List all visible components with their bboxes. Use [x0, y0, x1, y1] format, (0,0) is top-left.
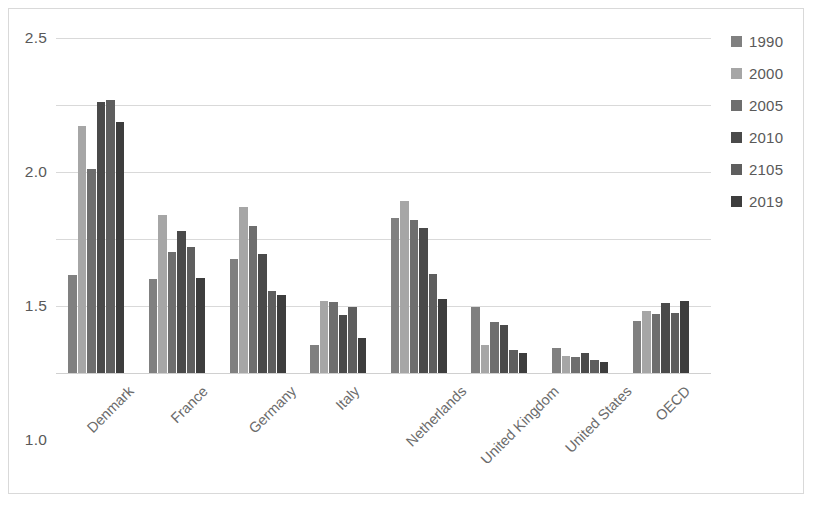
y-axis-tick-label: 2.0 — [25, 163, 47, 181]
bar-series-layer — [56, 38, 701, 373]
legend-swatch-icon — [731, 132, 742, 143]
bar — [97, 102, 106, 373]
bar — [310, 345, 319, 373]
bar — [277, 295, 286, 373]
bar-group — [620, 38, 701, 373]
legend-item[interactable]: 1990 — [731, 33, 783, 50]
bar — [339, 315, 348, 373]
bar-group — [137, 38, 218, 373]
bar — [391, 218, 400, 373]
bar — [239, 207, 248, 373]
legend-item[interactable]: 2000 — [731, 65, 783, 82]
legend-swatch-icon — [731, 68, 742, 79]
chart-legend: 199020002005201021052019 — [731, 33, 783, 210]
bar — [500, 325, 509, 373]
bar — [509, 350, 518, 373]
bar — [481, 345, 490, 373]
x-axis-label-cell: Germany — [217, 375, 298, 485]
legend-label: 2019 — [749, 193, 783, 210]
bar — [158, 215, 167, 373]
bar — [177, 231, 186, 373]
bar — [419, 228, 428, 373]
bar — [590, 360, 599, 373]
gridline: 0.0 — [56, 373, 711, 374]
bar-group — [298, 38, 379, 373]
y-axis-tick-label: 1.0 — [25, 431, 47, 449]
bar — [329, 302, 338, 373]
bar — [671, 313, 680, 373]
bar — [600, 362, 609, 373]
legend-swatch-icon — [731, 100, 742, 111]
x-axis-label-cell: United Kingdom — [459, 375, 540, 485]
bar — [400, 201, 409, 373]
x-axis-tick-label: Italy — [333, 383, 363, 413]
chart-container: 0.00.51.01.52.02.5 DenmarkFranceGermanyI… — [8, 8, 804, 494]
bar — [249, 226, 258, 373]
bar — [258, 254, 267, 373]
bar-group — [379, 38, 460, 373]
legend-label: 2105 — [749, 161, 783, 178]
bar-group — [459, 38, 540, 373]
legend-item[interactable]: 2019 — [731, 193, 783, 210]
x-axis-label-cell: Italy — [298, 375, 379, 485]
bar — [268, 291, 277, 373]
bar — [168, 252, 177, 373]
bar — [562, 356, 571, 373]
bar — [410, 220, 419, 373]
bar — [633, 321, 642, 373]
bar — [552, 348, 561, 373]
legend-swatch-icon — [731, 196, 742, 207]
bar — [642, 311, 651, 373]
x-axis-tick-label: Denmark — [84, 383, 137, 436]
x-axis-labels: DenmarkFranceGermanyItalyNetherlandsUnit… — [56, 375, 701, 485]
bar — [438, 299, 447, 373]
bar — [87, 169, 96, 373]
bar — [230, 259, 239, 373]
x-axis-label-cell: OECD — [620, 375, 701, 485]
plot-area: 0.00.51.01.52.02.5 — [56, 38, 711, 373]
bar — [68, 275, 77, 373]
bar — [196, 278, 205, 373]
x-axis-tick-label: France — [168, 383, 211, 426]
bar — [78, 126, 87, 373]
bar-group — [540, 38, 621, 373]
bar — [519, 353, 528, 373]
legend-item[interactable]: 2105 — [731, 161, 783, 178]
legend-swatch-icon — [731, 164, 742, 175]
x-axis-label-cell: United States — [540, 375, 621, 485]
legend-label: 2010 — [749, 129, 783, 146]
bar — [106, 100, 115, 373]
bar-group — [56, 38, 137, 373]
legend-label: 1990 — [749, 33, 783, 50]
bar-group — [217, 38, 298, 373]
legend-item[interactable]: 2005 — [731, 97, 783, 114]
bar — [429, 274, 438, 373]
y-axis-tick-label: 1.5 — [25, 297, 47, 315]
y-axis-tick-label: 2.5 — [25, 29, 47, 47]
bar — [490, 322, 499, 373]
bar — [680, 301, 689, 373]
bar — [149, 279, 158, 373]
legend-item[interactable]: 2010 — [731, 129, 783, 146]
bar — [652, 314, 661, 373]
bar — [571, 357, 580, 373]
bar — [358, 338, 367, 373]
legend-label: 2000 — [749, 65, 783, 82]
x-axis-label-cell: Netherlands — [379, 375, 460, 485]
bar — [187, 247, 196, 373]
bar — [661, 303, 670, 373]
legend-swatch-icon — [731, 36, 742, 47]
legend-label: 2005 — [749, 97, 783, 114]
bar — [116, 122, 125, 373]
bar — [348, 307, 357, 373]
x-axis-label-cell: Denmark — [56, 375, 137, 485]
bar — [581, 353, 590, 373]
x-axis-tick-label: OECD — [652, 383, 693, 424]
x-axis-tick-label: Germany — [245, 383, 298, 436]
bar — [471, 307, 480, 373]
bar — [320, 301, 329, 373]
x-axis-label-cell: France — [137, 375, 218, 485]
